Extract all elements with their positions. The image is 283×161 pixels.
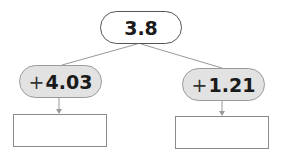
operation-node-right: + 1.21 (182, 68, 265, 101)
connector-left (62, 44, 137, 65)
operation-node-left: + 4.03 (19, 65, 102, 98)
plus-sign: + (192, 74, 208, 96)
operand-value: 4.03 (46, 71, 93, 93)
root-value-node: 3.8 (100, 11, 182, 44)
operand-value: 1.21 (209, 74, 256, 96)
plus-sign: + (29, 71, 45, 93)
answer-box-right[interactable] (175, 116, 269, 149)
connector-right (141, 44, 222, 68)
answer-box-left[interactable] (13, 114, 107, 147)
root-value: 3.8 (124, 17, 158, 39)
